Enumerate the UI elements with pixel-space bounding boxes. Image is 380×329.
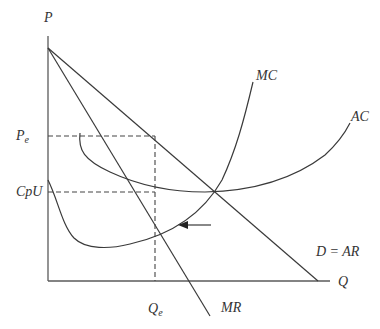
mr-curve xyxy=(48,48,210,316)
cpu-label: CpU xyxy=(16,184,43,199)
pe-label: Pe xyxy=(15,128,30,145)
ac-curve xyxy=(80,123,350,192)
mr-label: MR xyxy=(220,300,242,315)
y-axis-label: P xyxy=(43,10,53,25)
demand-label: D = AR xyxy=(315,244,360,259)
mc-curve xyxy=(48,82,253,248)
x-axis-label: Q xyxy=(338,274,348,289)
ac-label: AC xyxy=(350,109,370,124)
qe-label: Qe xyxy=(148,301,163,318)
mc-label: MC xyxy=(255,68,278,83)
monopoly-diagram: P Pe CpU Qe Q MC AC D = AR MR xyxy=(0,0,380,329)
